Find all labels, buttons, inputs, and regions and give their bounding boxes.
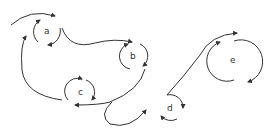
node-b-label: b	[130, 51, 136, 61]
node-e-label: e	[230, 55, 236, 65]
node-c-label: c	[78, 87, 83, 97]
node-e: e	[207, 40, 263, 82]
edge-b-to-c	[75, 69, 145, 105]
node-b-loop-right	[140, 44, 148, 66]
edge-a-to-b	[62, 28, 132, 45]
edge-d-to-e	[167, 33, 237, 95]
node-c-loop-right	[86, 80, 95, 100]
edge-c-to-a	[22, 36, 63, 100]
node-d-label: d	[167, 103, 173, 113]
node-a-loop-left	[34, 20, 40, 42]
node-a: a	[34, 20, 61, 45]
node-d-loop-bottom	[161, 116, 177, 121]
node-c: c	[65, 78, 95, 100]
node-d: d	[161, 95, 183, 121]
diagram-canvas: a b c d e	[0, 0, 266, 134]
edge-start-to-a	[11, 13, 55, 25]
edge-c-to-d	[104, 102, 146, 125]
node-b-loop-left	[119, 44, 130, 69]
node-b: b	[119, 44, 147, 69]
node-e-loop-right	[234, 40, 263, 82]
node-a-loop-right	[48, 28, 60, 45]
node-a-label: a	[44, 26, 50, 36]
